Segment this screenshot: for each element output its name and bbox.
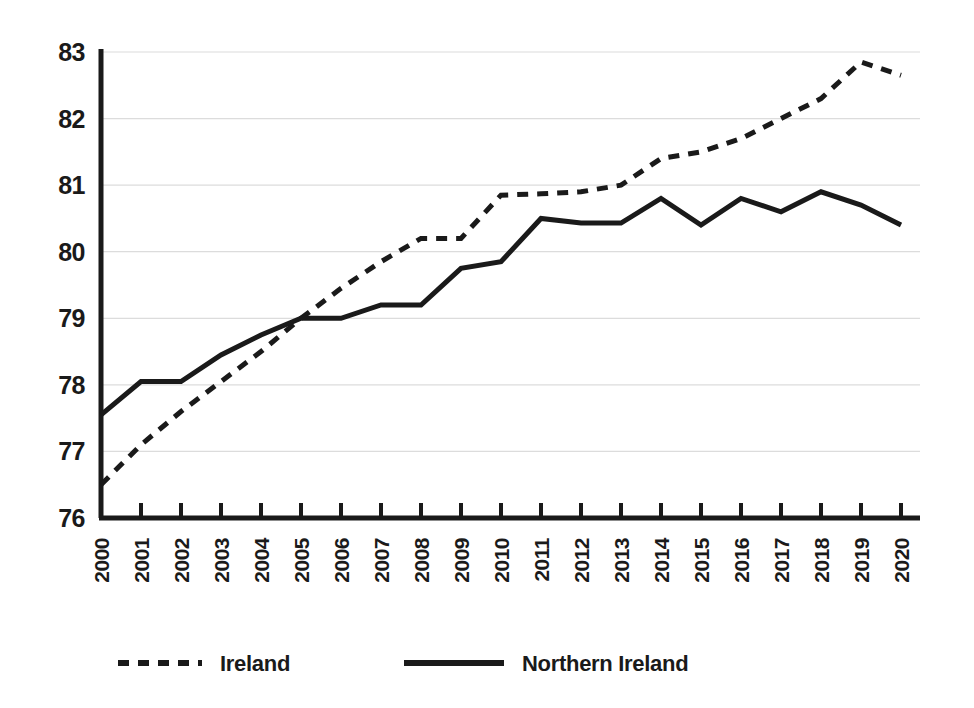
line-chart: 7677787980818283 20002001200220032004200… <box>0 0 974 708</box>
y-axis-tick-label: 83 <box>58 38 85 66</box>
y-axis-tick-label: 76 <box>58 504 85 532</box>
chart-legend: IrelandNorthern Ireland <box>118 651 688 676</box>
x-axis-tick-label: 2005 <box>290 537 313 583</box>
legend-label-ireland: Ireland <box>220 651 290 676</box>
x-axis-tick-labels: 2000200120022003200420052006200720082009… <box>90 537 913 583</box>
series-line-ireland <box>101 62 901 485</box>
y-axis-tick-label: 77 <box>58 437 85 465</box>
x-axis-tick-label: 2000 <box>90 538 113 583</box>
y-axis-tick-label: 79 <box>58 304 85 332</box>
x-axis-tick-label: 2009 <box>450 538 473 583</box>
x-axis-tick-label: 2012 <box>570 538 593 583</box>
x-axis-tick-label: 2020 <box>890 538 913 583</box>
legend-label-northern-ireland: Northern Ireland <box>522 651 688 676</box>
y-axis-tick-label: 82 <box>58 105 85 133</box>
x-axis-tick-label: 2017 <box>770 538 793 583</box>
y-axis-tick-label: 80 <box>58 238 85 266</box>
x-axis-tick-label: 2004 <box>250 537 273 583</box>
x-axis-tick-label: 2007 <box>370 538 393 583</box>
series-lines-group <box>101 62 901 485</box>
y-axis-tick-label: 78 <box>58 371 85 399</box>
x-axis-tick-label: 2014 <box>650 537 673 583</box>
y-axis-tick-labels: 7677787980818283 <box>58 38 85 532</box>
x-axis-tick-label: 2011 <box>530 537 553 581</box>
x-axis-tick-label: 2002 <box>170 538 193 583</box>
chart-container: 7677787980818283 20002001200220032004200… <box>0 0 974 708</box>
x-axis-tick-label: 2019 <box>850 538 873 583</box>
y-axis-tick-label: 81 <box>58 171 85 199</box>
x-axis-tick-label: 2003 <box>210 538 233 583</box>
series-line-northern-ireland <box>101 192 901 415</box>
x-axis-tick-label: 2015 <box>690 537 713 583</box>
x-axis-tick-label: 2013 <box>610 538 633 583</box>
x-axis-tick-label: 2008 <box>410 537 433 583</box>
x-axis-tick-label: 2018 <box>810 537 833 583</box>
x-axis-tick-label: 2001 <box>130 537 153 583</box>
x-axis-ticks <box>101 503 901 516</box>
x-axis-tick-label: 2016 <box>730 538 753 583</box>
x-axis-tick-label: 2010 <box>490 538 513 583</box>
x-axis-tick-label: 2006 <box>330 538 353 583</box>
